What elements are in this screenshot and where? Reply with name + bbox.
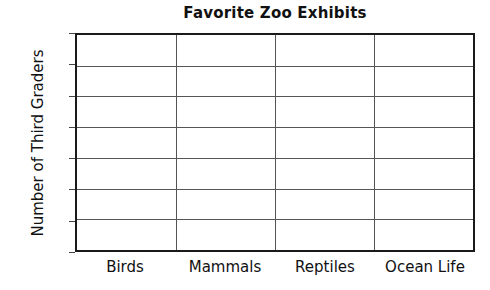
bar-chart-figure: Favorite Zoo Exhibits Number of Third Gr… (0, 0, 490, 290)
x-tick-label: Reptiles (275, 256, 375, 282)
x-tick-label: Mammals (175, 256, 275, 282)
x-tick-label: Ocean Life (375, 256, 475, 282)
x-tick-label: Birds (75, 256, 175, 282)
bars-layer (77, 35, 473, 250)
y-tick-mark (69, 252, 75, 253)
chart-title: Favorite Zoo Exhibits (75, 4, 475, 22)
y-axis: 02468101214 (0, 0, 75, 290)
plot-area (75, 33, 475, 252)
x-axis: BirdsMammalsReptilesOcean Life (75, 256, 475, 282)
